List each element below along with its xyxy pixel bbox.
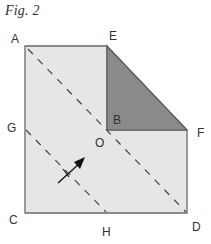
label-d: D xyxy=(192,221,201,233)
label-b: B xyxy=(113,114,121,126)
label-h: H xyxy=(102,226,111,238)
label-o: O xyxy=(95,137,104,149)
label-e: E xyxy=(109,30,117,42)
origami-fold-diagram xyxy=(0,0,211,244)
label-g: G xyxy=(7,122,16,134)
label-f: F xyxy=(197,127,204,139)
label-c: C xyxy=(9,214,18,226)
label-a: A xyxy=(11,33,19,45)
